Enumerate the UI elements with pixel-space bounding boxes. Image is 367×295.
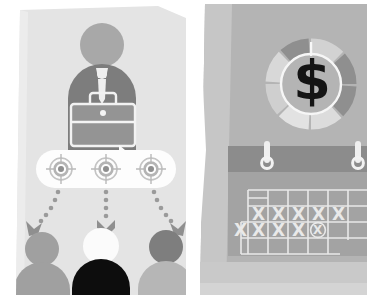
audience-person-head xyxy=(83,228,119,264)
calendar-mark[interactable]: X xyxy=(292,222,305,239)
calendar-mark-today[interactable]: X xyxy=(313,224,322,236)
right-panel-floor xyxy=(200,283,367,295)
businessman-head xyxy=(80,23,124,67)
audience-group xyxy=(14,228,194,295)
arrow-dot xyxy=(155,198,160,203)
arrow-dot xyxy=(53,198,58,203)
calendar-mark[interactable]: X xyxy=(312,206,325,223)
targeting-panel xyxy=(14,6,194,295)
tie-knot xyxy=(97,69,107,79)
arrow-dot xyxy=(104,198,109,203)
target-center-dot xyxy=(148,166,154,172)
calendar-mark[interactable]: X xyxy=(272,222,285,239)
right-panel xyxy=(200,4,367,295)
calendar-header xyxy=(228,146,367,173)
arrow-dot xyxy=(169,219,174,224)
arrow-dot xyxy=(152,190,157,195)
arrow-dot xyxy=(104,214,109,219)
scene-svg xyxy=(0,0,367,295)
arrow-dot xyxy=(44,213,49,218)
arrow-dot xyxy=(39,219,44,224)
target-center-dot xyxy=(58,166,64,172)
dollar-sign-icon: $ xyxy=(287,50,337,112)
arrow-dot xyxy=(159,206,164,211)
arrow-dot xyxy=(56,190,61,195)
target-center-dot xyxy=(103,166,109,172)
audience-person-head xyxy=(25,232,59,266)
arrow-dot xyxy=(164,213,169,218)
calendar-mark[interactable]: X xyxy=(332,206,345,223)
arrow-dot xyxy=(104,190,109,195)
arrow-dot xyxy=(104,206,109,211)
calendar-mark[interactable]: X xyxy=(252,222,265,239)
illustration-canvas: $ X X X X X X X X X X xyxy=(0,0,367,295)
calendar-mark[interactable]: X xyxy=(234,222,247,239)
targets-group xyxy=(36,150,176,188)
arrow-dot xyxy=(49,206,54,211)
briefcase-clasp xyxy=(100,110,106,116)
audience-person-head xyxy=(149,230,183,264)
